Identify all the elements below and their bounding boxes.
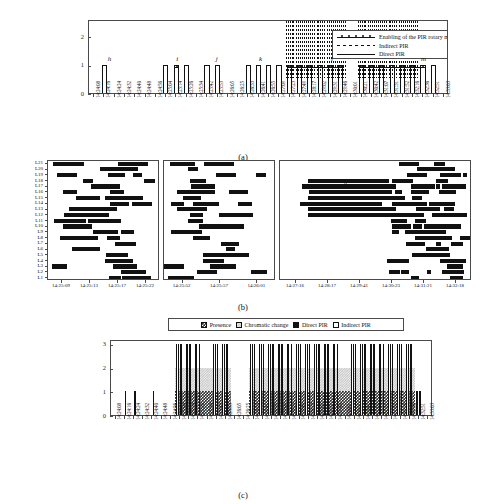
panel-b-activity-cell [451, 242, 464, 246]
panel-b-activity-cell [401, 270, 409, 274]
panel-a-indirect-pir-dash [320, 21, 321, 78]
panel-b-activity-cell [68, 190, 78, 194]
panel-b-x-tick-label: 14:25:57 [210, 283, 228, 288]
panel-b-activity-cell [453, 264, 463, 268]
panel-b-activity-cell [444, 207, 453, 211]
legend-label-rotary: Enabling of the PIR rotary mechanism [379, 33, 448, 41]
panel-c-x-tick-mark [354, 416, 355, 419]
panel-c-x-tick-mark [271, 416, 272, 419]
panel-a-indirect-pir-dash [327, 21, 328, 78]
panel-b-activity-cell [226, 247, 235, 251]
bar-top-edge [216, 65, 219, 66]
panel-b-activity-cell [121, 230, 134, 234]
panel-b-y-tick-label: L9 [16, 229, 43, 234]
panel-c-x-tick-label: 14:25:04 [181, 403, 187, 420]
panel-a-indirect-pir-dash [318, 21, 319, 78]
panel-b-activity-cell [115, 167, 138, 171]
panel-b-activity-cell [177, 207, 207, 211]
panel-c-x-tick-label: 14:32:51 [420, 403, 426, 420]
panel-a-indirect-pir-dash [308, 21, 309, 78]
panel-b-activity-cell [193, 236, 210, 240]
panel-b-activity-cell [229, 190, 248, 194]
panel-b-activity-cell [208, 253, 232, 257]
panel-c-x-tick-label: 14:24:48 [162, 403, 168, 420]
panel-a-x-tick-label: 14:28:17 [311, 81, 317, 98]
panel-b-activity-cell [413, 224, 422, 228]
legend-label-presence: Presence [210, 322, 231, 328]
panel-a-rotary-line [288, 67, 345, 68]
panel-a-y-tick-label: 0 [70, 91, 84, 98]
panel-b-activity-cell [191, 184, 216, 188]
panel-a-marker-h: h [108, 55, 112, 63]
panel-b-activity-cell [76, 236, 97, 240]
panel-a-x-tick-label: 14:25:26 [188, 81, 194, 98]
panel-c: Presence Chromatic change Direct PIR Ind… [0, 318, 486, 504]
legend-label-direct-pir: Direct PIR [302, 322, 328, 328]
panel-b-activity-cell [425, 236, 451, 240]
panel-a-x-tick-label: 14:27:09 [280, 81, 286, 98]
panel-b-activity-cell [105, 196, 131, 200]
panel-b-activity-cell [391, 219, 408, 223]
panel-a-rotary-marker [371, 66, 373, 68]
panel-c-x-tick-label: 14:25:42 [218, 403, 224, 420]
panel-b-activity-cell [132, 202, 152, 206]
panel-c-x-tick-label: 14:32:36 [411, 403, 417, 420]
panel-a-x-tick-label: 14:25:14 [177, 81, 183, 98]
panel-b-activity-cell [72, 247, 94, 251]
legend-item-indirect-pir: Indirect PIR [333, 322, 371, 328]
panel-b-subplot [47, 160, 159, 280]
panel-b-activity-cell [109, 276, 121, 280]
panel-b-activity-cell [392, 224, 412, 228]
panel-c-x-tick-label: 14:30:01 [346, 403, 352, 420]
panel-b-y-tick-label: L1 [16, 275, 43, 280]
panel-b-activity-cell [190, 179, 205, 183]
panel-c-y-tick-label: 2 [92, 365, 106, 372]
dashed-line-icon [337, 42, 375, 50]
panel-a-x-tick-label: 14:25:42 [208, 81, 214, 98]
panel-c-x-tick-label: 14:26:55 [273, 403, 279, 420]
panel-b-activity-cell [203, 259, 224, 263]
panel-b-y-tick-label: L5 [16, 252, 43, 257]
panel-b-activity-cell [412, 253, 433, 257]
panel-b-activity-cell [431, 202, 436, 206]
panel-b-y-tick-label: L15 [16, 195, 43, 200]
panel-b-activity-cell [415, 219, 427, 223]
panel-b-subplot [279, 160, 471, 280]
panel-b-activity-cell [431, 253, 449, 257]
panel-c-x-tick-label: 14:26:25 [245, 403, 251, 420]
panel-b-activity-cell [439, 190, 455, 194]
panel-a-x-tick-mark [268, 94, 269, 97]
panel-a-indirect-pir-dash [310, 21, 311, 78]
panel-b-activity-cell [52, 264, 66, 268]
panel-a: Enabling of the PIR rotary mechanism Ind… [0, 14, 486, 160]
panel-a-x-tick-label: 14:30:42 [373, 81, 379, 98]
panel-a-rotary-marker [392, 66, 394, 68]
panel-a-x-tick-label: 14:30:21 [362, 81, 368, 98]
panel-a-x-tick-mark [93, 94, 94, 97]
panel-c-x-tick-label: 14:27:49 [300, 403, 306, 420]
panel-c-x-tick-label: 14:29:46 [337, 403, 343, 420]
panel-a-indirect-pir-dash [304, 21, 305, 78]
legend-item-rotary: Enabling of the PIR rotary mechanism [337, 33, 448, 41]
panel-a-x-tick-mark [186, 94, 187, 97]
panel-b-activity-cell [392, 230, 399, 234]
panel-b-activity-cell [442, 270, 464, 274]
panel-c-x-tick-label: 14:26:41 [264, 403, 270, 420]
panel-c-x-tick-label: 14:30:42 [365, 403, 371, 420]
panel-b-y-tick-label: L11 [16, 218, 43, 223]
panel-b-activity-cell [177, 190, 197, 194]
panel-c-y-tick-label: 1 [92, 389, 106, 396]
direct-pir-swatch-icon [293, 322, 299, 328]
panel-c-caption: (c) [0, 490, 486, 500]
panel-a-x-tick-label: 14:24:56 [157, 81, 163, 98]
panel-b-y-tick-label: L19 [16, 172, 43, 177]
panel-c-x-tick-label: 14:31:52 [392, 403, 398, 420]
panel-b-activity-cell [230, 253, 249, 257]
panel-b-activity-cell [308, 207, 396, 211]
bar-top-edge [164, 65, 167, 66]
panel-b-activity-cell [171, 202, 184, 206]
panel-c-x-tick-label: 14:25:53 [227, 403, 233, 420]
panel-b-activity-cell [193, 202, 219, 206]
panel-a-rotary-marker [176, 66, 178, 68]
panel-b-activity-cell [436, 242, 441, 246]
